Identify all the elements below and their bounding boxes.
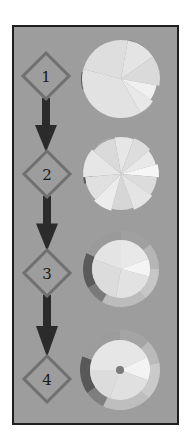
pie-glyph-4 xyxy=(80,330,160,410)
step-diamond-3: 3 xyxy=(24,250,70,296)
step-label: 1 xyxy=(41,68,51,86)
step-label: 2 xyxy=(42,166,52,184)
flow-arrow-2-3 xyxy=(36,196,58,251)
pie-glyph-2 xyxy=(83,137,159,211)
step-label: 3 xyxy=(42,265,52,283)
pie-glyph-1 xyxy=(81,40,160,118)
step-diamond-2: 2 xyxy=(24,151,70,197)
step-diamond-4: 4 xyxy=(24,356,70,402)
pie-glyph-3 xyxy=(83,231,159,307)
flow-diagram: 1234 xyxy=(0,0,190,439)
step-diamond-1: 1 xyxy=(23,53,69,99)
center-dot xyxy=(116,366,124,374)
diagram-canvas: 1234 xyxy=(0,0,190,439)
circles-layer xyxy=(80,40,160,410)
flow-arrow-3-4 xyxy=(36,295,58,357)
flow-arrow-1-2 xyxy=(35,98,57,152)
step-label: 4 xyxy=(42,371,52,389)
arrows-layer xyxy=(35,98,58,357)
